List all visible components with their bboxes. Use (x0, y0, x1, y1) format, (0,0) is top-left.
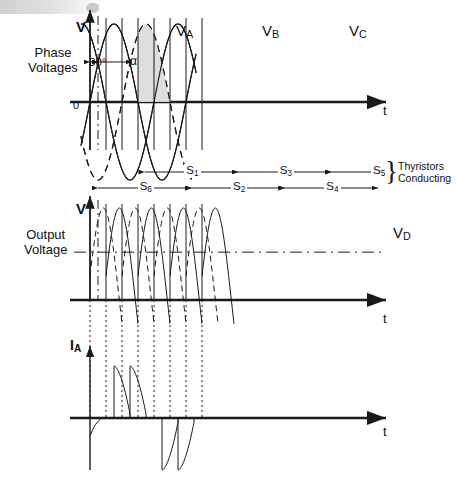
axis-label-t-top: t (383, 104, 387, 119)
vb-label: VB (262, 22, 279, 41)
axis-label-t-middle: t (383, 312, 387, 327)
axis-label-ia: IA (70, 337, 81, 355)
current-leading-tail (90, 418, 102, 436)
angle-alpha-label: α (130, 55, 137, 69)
thyristor-label-S6: S6 (138, 180, 154, 194)
thyristor-label-S2: S2 (231, 180, 247, 194)
output-arc-7 (202, 208, 234, 324)
vc-label: VC (349, 22, 367, 41)
vd-label: VD (393, 224, 411, 243)
axis-label-v-middle: V (76, 200, 86, 217)
current-pulse-neg-1 (162, 418, 178, 470)
figure-root: PhaseVoltages OutputVoltage ThyristorsCo… (0, 0, 456, 484)
va-label: VA (176, 22, 193, 41)
axis-label-t-bottom: t (383, 425, 387, 440)
axis-label-v-top: V (76, 18, 86, 35)
output-voltage-label: OutputVoltage (24, 228, 67, 258)
thyristor-label-S3: S3 (278, 164, 294, 178)
origin-label: 0 (73, 99, 79, 112)
thyristor-label-S5: S5 (371, 164, 387, 178)
angle-30-label: 30° (89, 56, 106, 69)
current-pulse-neg-2 (178, 418, 194, 470)
thyristors-conducting-label: ThyristorsConducting (398, 160, 451, 184)
phase-voltages-label: PhaseVoltages (28, 46, 78, 76)
thyristor-label-S4: S4 (324, 180, 340, 194)
thyristor-label-S1: S1 (184, 164, 200, 178)
